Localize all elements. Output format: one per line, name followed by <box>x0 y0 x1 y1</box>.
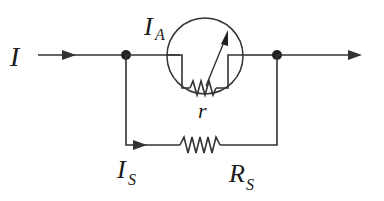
svg-text:S: S <box>246 176 254 193</box>
svg-text:S: S <box>128 171 136 188</box>
arrow-icon <box>133 140 147 150</box>
shunt-current-label: I S <box>116 155 136 188</box>
input-current-label: I <box>9 41 21 72</box>
ammeter-current-label: I A <box>143 12 165 43</box>
needle-arrow-icon <box>221 30 228 46</box>
internal-resistance-label: r <box>198 98 207 123</box>
output-wire <box>277 50 362 60</box>
svg-text:A: A <box>154 26 165 43</box>
svg-text:I: I <box>116 155 127 184</box>
ammeter-circle <box>167 18 243 94</box>
svg-text:I: I <box>143 12 154 41</box>
circuit-diagram: I I A r I S <box>0 0 384 201</box>
svg-text:R: R <box>228 159 245 188</box>
arrow-icon <box>62 50 76 60</box>
arrow-icon <box>348 50 362 60</box>
shunt-resistor-icon <box>180 137 220 153</box>
ammeter <box>166 18 245 95</box>
shunt-resistor-label: R S <box>228 159 254 193</box>
input-wire <box>38 50 126 60</box>
